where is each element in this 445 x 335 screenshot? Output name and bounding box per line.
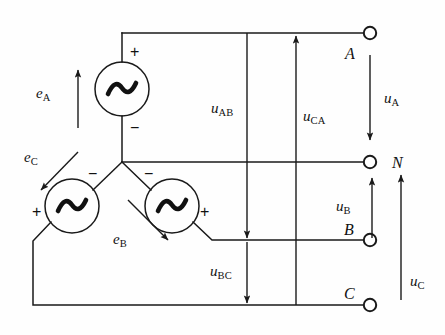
source-b-sine-icon <box>158 200 186 211</box>
terminal-n-node[interactable] <box>364 156 376 168</box>
source-a-minus-sign: − <box>130 120 139 136</box>
terminal-a-node[interactable] <box>364 27 376 39</box>
source-a-sine-icon <box>108 83 136 94</box>
terminal-c-label: C <box>344 286 355 302</box>
source-c-plus-sign: + <box>32 204 41 220</box>
u-c-label: uC <box>410 274 425 291</box>
source-c-sine-icon <box>58 200 86 211</box>
u-ca-label: uCA <box>303 109 326 126</box>
circuit-schematic-canvas <box>0 0 445 335</box>
circuit-diagram: eA eC eB + − − + − + uAB uBC uCA uA uB u… <box>0 0 445 335</box>
u-a-label: uA <box>384 91 399 108</box>
source-a-plus-sign: + <box>130 44 139 60</box>
terminal-b-label: B <box>344 222 354 238</box>
source-c-minus-sign: − <box>88 166 97 182</box>
lead-source-b-bottom-to-line-b <box>193 222 363 240</box>
source-b-plus-sign: + <box>200 204 209 220</box>
emf-a-label: eA <box>36 86 50 103</box>
u-ab-label: uAB <box>211 101 234 118</box>
emf-c-label: eC <box>24 150 38 167</box>
emf-c-arrow <box>41 152 78 190</box>
u-bc-label: uBC <box>210 264 232 281</box>
lead-source-c-top <box>93 162 122 190</box>
source-b-minus-sign: − <box>144 166 153 182</box>
terminal-c-node[interactable] <box>364 299 376 311</box>
terminal-n-label: N <box>392 155 403 171</box>
lead-source-c-bottom-to-line-c <box>33 222 363 305</box>
u-b-label: uB <box>336 199 351 216</box>
emf-b-label: eB <box>113 232 127 249</box>
terminal-b-node[interactable] <box>364 234 376 246</box>
terminal-a-label: A <box>345 46 355 62</box>
